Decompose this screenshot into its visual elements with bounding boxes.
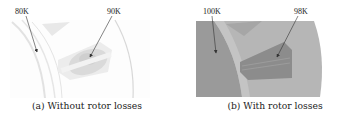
caption-a: (a) Without rotor losses bbox=[0, 100, 174, 111]
panel-without-rotor-losses: 80K 90K (a) Without rotor losses bbox=[0, 0, 174, 121]
svg-text:80K: 80K bbox=[15, 7, 29, 16]
svg-text:90K: 90K bbox=[107, 7, 121, 16]
thermal-map-without-rotor-losses: 80K 90K bbox=[0, 0, 174, 98]
svg-text:98K: 98K bbox=[294, 7, 308, 16]
caption-b: (b) With rotor losses bbox=[188, 100, 348, 111]
svg-text:100K: 100K bbox=[203, 7, 221, 16]
thermal-map-with-rotor-losses: 100K 98K bbox=[174, 0, 348, 98]
panel-with-rotor-losses: 100K 98K (b) With rotor losses bbox=[174, 0, 348, 121]
